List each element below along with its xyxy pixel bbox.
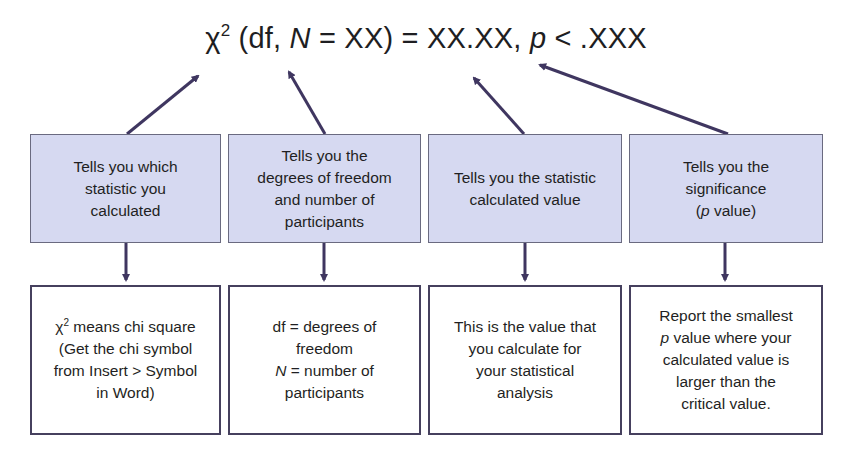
significance-line-3: (p value) — [683, 200, 769, 222]
detail-p-box: Report the smallest p value where your c… — [629, 285, 823, 435]
explain-df-text: Tells you the degrees of freedom and num… — [257, 145, 391, 233]
explain-statistic-box: Tells you which statistic you calculated — [30, 134, 221, 243]
df-line-4: participants — [273, 382, 377, 404]
arrow-to-chi-icon — [127, 76, 198, 134]
p-line-2: p value where your — [659, 327, 793, 349]
chi-rest: (Get the chi symbol from Insert > Symbol… — [54, 338, 197, 404]
detail-chi-box: χ2 means chi square (Get the chi symbol … — [30, 285, 221, 435]
detail-value-box: This is the value that you calculate for… — [428, 285, 622, 435]
arrow-to-value-icon — [474, 78, 524, 134]
detail-chi-text: χ2 means chi square (Get the chi symbol … — [54, 316, 197, 404]
explain-statistic-text: Tells you which statistic you calculated — [73, 156, 177, 222]
significance-line-2: significance — [683, 178, 769, 200]
explain-significance-box: Tells you the significance (p value) — [629, 134, 823, 243]
detail-df-text: df = degrees of freedom N = number of pa… — [273, 316, 377, 404]
df-line-3: N = number of — [273, 360, 377, 382]
significance-line-1: Tells you the — [683, 156, 769, 178]
detail-df-box: df = degrees of freedom N = number of pa… — [228, 285, 421, 435]
explain-df-box: Tells you the degrees of freedom and num… — [228, 134, 421, 243]
explain-value-text: Tells you the statistic calculated value — [454, 167, 596, 211]
p-line-1: Report the smallest — [659, 305, 793, 327]
p-variable: p — [701, 202, 710, 219]
arrow-to-df-n-icon — [289, 72, 325, 134]
paren-rest: value) — [710, 202, 757, 219]
n-variable: N — [275, 362, 286, 379]
df-line-2: freedom — [273, 338, 377, 360]
p-line-2-rest: value where your — [669, 329, 791, 346]
detail-value-text: This is the value that you calculate for… — [454, 316, 596, 404]
df-line-1: df = degrees of — [273, 316, 377, 338]
df-line-3-rest: = number of — [286, 362, 373, 379]
chi-line-1-rest: means chi square — [69, 318, 196, 335]
explain-significance-text: Tells you the significance (p value) — [683, 156, 769, 222]
chi-line-1: χ2 means chi square — [54, 316, 197, 338]
detail-p-text: Report the smallest p value where your c… — [659, 305, 793, 415]
p-rest: calculated value is larger than the crit… — [659, 349, 793, 415]
p-variable: p — [661, 329, 670, 346]
arrow-to-p-icon — [540, 65, 728, 134]
explain-value-box: Tells you the statistic calculated value — [428, 134, 622, 243]
